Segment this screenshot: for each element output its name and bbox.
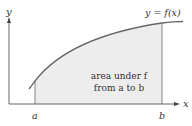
upper-bound-label: b bbox=[159, 110, 165, 121]
lower-bound-label: a bbox=[32, 110, 38, 121]
y-axis-arrow-icon bbox=[7, 17, 11, 23]
curve-label: y = f(x) bbox=[144, 7, 181, 18]
region-label-line2: from a to b bbox=[94, 83, 145, 93]
x-axis-label: x bbox=[183, 98, 189, 109]
x-axis-arrow-icon bbox=[174, 102, 180, 106]
area-under-curve-diagram: y x y = f(x) a b area under f from a to … bbox=[0, 0, 192, 126]
region-label-line1: area under f bbox=[91, 71, 148, 81]
diagram-canvas: y x y = f(x) a b area under f from a to … bbox=[0, 0, 192, 126]
y-axis-label: y bbox=[5, 6, 12, 17]
